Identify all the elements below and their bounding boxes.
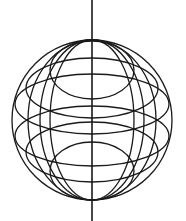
globe-wireframe-icon <box>0 0 186 221</box>
wireframe-sphere-figure <box>0 0 186 221</box>
